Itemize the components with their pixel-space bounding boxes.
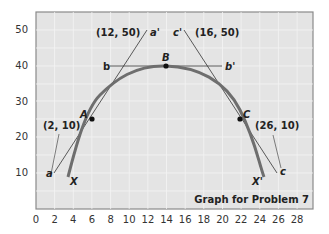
svg-text:4: 4 bbox=[70, 214, 76, 225]
label-26-10: (26, 10) bbox=[255, 120, 299, 131]
point-c bbox=[237, 116, 242, 121]
svg-text:18: 18 bbox=[197, 214, 210, 225]
svg-text:20: 20 bbox=[216, 214, 229, 225]
svg-text:6: 6 bbox=[89, 214, 95, 225]
svg-text:2: 2 bbox=[51, 214, 57, 225]
label-2-10: (2, 10) bbox=[43, 120, 80, 131]
svg-text:26: 26 bbox=[272, 214, 285, 225]
label-b-prime: b' bbox=[225, 61, 235, 72]
y-tick-50: 50 bbox=[15, 24, 28, 35]
x-axis-ticks: 0 2 4 6 8 10 12 14 16 18 20 22 24 26 28 bbox=[33, 214, 304, 225]
label-a-prime: a' bbox=[150, 27, 160, 38]
point-a bbox=[89, 116, 94, 121]
svg-text:22: 22 bbox=[235, 214, 248, 225]
label-point-a: A bbox=[79, 109, 88, 120]
chart-title: Graph for Problem 7 bbox=[194, 194, 309, 205]
y-tick-20: 20 bbox=[15, 131, 28, 142]
y-tick-30: 30 bbox=[15, 96, 28, 107]
label-b: b bbox=[103, 61, 110, 72]
svg-text:16: 16 bbox=[179, 214, 192, 225]
svg-text:8: 8 bbox=[107, 214, 113, 225]
label-point-c: C bbox=[243, 109, 251, 120]
label-x-prime: X' bbox=[251, 176, 263, 187]
chart: (12, 50) a' c' (16, 50) b B b' A C (2, 1… bbox=[0, 0, 329, 234]
y-tick-10: 10 bbox=[15, 167, 28, 178]
label-point-b: B bbox=[162, 52, 170, 63]
label-12-50: (12, 50) bbox=[96, 27, 140, 38]
svg-text:28: 28 bbox=[291, 214, 304, 225]
svg-text:12: 12 bbox=[142, 214, 155, 225]
label-16-50: (16, 50) bbox=[195, 27, 239, 38]
svg-text:24: 24 bbox=[253, 214, 266, 225]
svg-text:14: 14 bbox=[160, 214, 173, 225]
label-c-prime: c' bbox=[173, 27, 182, 38]
point-b bbox=[163, 63, 168, 68]
label-a: a bbox=[46, 168, 53, 179]
svg-text:0: 0 bbox=[33, 214, 39, 225]
svg-text:10: 10 bbox=[123, 214, 136, 225]
label-c: c bbox=[280, 166, 286, 177]
y-tick-40: 40 bbox=[15, 60, 28, 71]
label-x: X bbox=[69, 176, 79, 187]
